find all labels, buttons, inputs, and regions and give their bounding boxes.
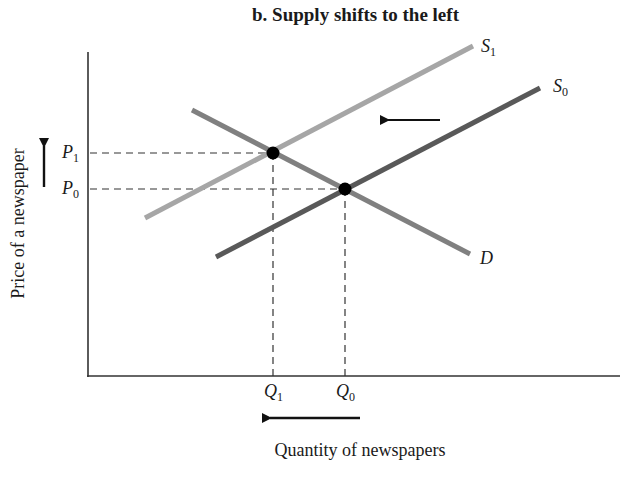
d-label: D <box>480 248 493 269</box>
supply-curve-s0 <box>216 88 540 257</box>
equilibrium-point-e1 <box>267 147 280 160</box>
equilibrium-point-e0 <box>339 183 352 196</box>
chart-plot <box>0 0 631 479</box>
s1-label: S1 <box>481 36 496 60</box>
q0-label: Q0 <box>336 381 355 405</box>
s0-label: S0 <box>553 76 568 100</box>
supply-curve-s1 <box>145 46 473 218</box>
p1-label: P1 <box>62 142 79 166</box>
x-axis-label: Quantity of newspapers <box>230 440 490 461</box>
p0-label: P0 <box>62 178 79 202</box>
demand-curve-d <box>192 110 470 254</box>
q1-label: Q1 <box>264 381 283 405</box>
y-axis-label: Price of a newspaper <box>8 114 29 334</box>
